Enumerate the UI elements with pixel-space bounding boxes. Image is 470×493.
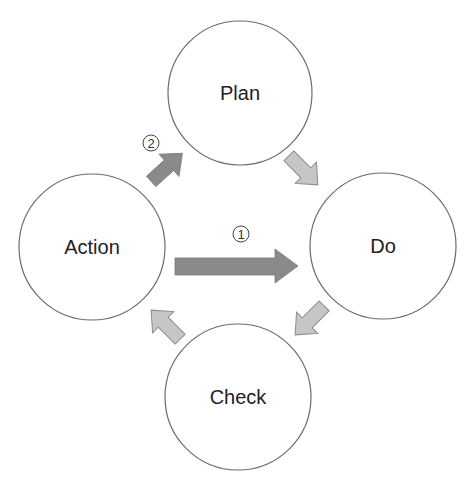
- node-check: Check: [165, 324, 311, 470]
- step-2-marker: 2: [143, 135, 159, 151]
- action-label: Action: [64, 236, 120, 258]
- arrow-action-to-do: [175, 249, 298, 283]
- check-label: Check: [210, 386, 268, 408]
- node-action: Action: [19, 174, 165, 320]
- do-label: Do: [370, 235, 396, 257]
- arrow-plan-to-do: [278, 145, 328, 195]
- large-right-arrow-icon: [175, 249, 298, 283]
- step-1-label: 1: [237, 227, 244, 242]
- arrow-check-to-action: [141, 300, 191, 350]
- diagonal-down-right-arrow-icon: [278, 145, 328, 195]
- plan-label: Plan: [220, 82, 260, 104]
- node-do: Do: [310, 173, 456, 319]
- diagonal-up-left-arrow-icon: [141, 300, 191, 350]
- arrow-do-to-check: [285, 295, 335, 345]
- node-plan: Plan: [168, 21, 312, 165]
- step-2-label: 2: [147, 136, 154, 151]
- pdca-diagram: Plan Do Check Action 1 2: [0, 0, 470, 493]
- step-1-marker: 1: [233, 226, 249, 242]
- diagonal-down-left-arrow-icon: [285, 295, 335, 345]
